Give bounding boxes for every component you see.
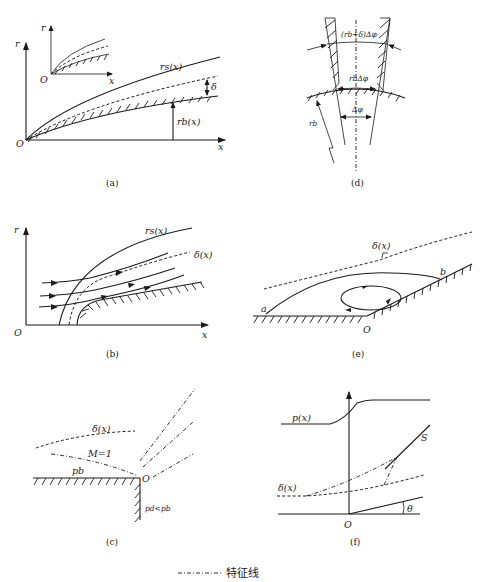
shock-curve	[59, 228, 192, 325]
delta-label: δ(x)	[372, 240, 391, 251]
inset-r-label: r	[41, 22, 47, 33]
streamline-1	[42, 253, 168, 283]
inset-diagram: r O x	[40, 22, 115, 86]
panel-c: δ(x) M=1 pb O pd<pb (c)	[33, 389, 195, 547]
origin-label: O	[363, 324, 371, 335]
outer-arrow-right	[389, 45, 401, 50]
point-a-label: a	[261, 303, 267, 314]
characteristic-line-3	[153, 454, 193, 477]
pb-label: pb	[72, 465, 84, 476]
boundary-layer-curve	[26, 76, 218, 140]
body-label: rb(x)	[177, 116, 201, 127]
angle-label: Δφ	[351, 105, 363, 114]
theta-label: θ	[407, 503, 413, 514]
outer-arc	[327, 42, 387, 44]
horizontal-wall-hatching	[34, 478, 134, 485]
panel-e: δ(x) a b O (e)	[253, 232, 472, 359]
streamlines	[39, 253, 184, 310]
pressure-label: p(x)	[292, 412, 311, 423]
panel-b: r O x rs(x) δ(x) (b)	[14, 224, 213, 359]
vertical-wall-hatching	[135, 484, 140, 522]
inner-arc-label: rbΔφ	[349, 74, 369, 83]
radius-label: rb	[309, 119, 318, 128]
legend-label: 特征线	[226, 566, 259, 580]
panel-a: r O x rs(x) δ rb(x) r O x (a)	[15, 22, 225, 188]
x-axis-label: x	[202, 329, 208, 340]
delta-label: δ(x)	[194, 249, 213, 260]
boundary-layer-curve	[69, 252, 190, 325]
characteristic-line	[306, 457, 397, 496]
figure-canvas: r O x rs(x) δ rb(x) r O x (a)	[0, 0, 482, 582]
characteristic-line-1	[140, 389, 195, 461]
caption-e: (e)	[352, 349, 364, 359]
boundary-layer-curve	[277, 475, 424, 496]
streamline-3	[39, 275, 184, 307]
radius-arrow	[317, 101, 334, 163]
delta-label: δ	[211, 81, 217, 92]
body-arc-hatching	[308, 88, 400, 101]
caption-a: (a)	[106, 178, 118, 188]
caption-b: (b)	[106, 349, 119, 359]
outer-arrow-left	[307, 45, 326, 50]
panel-f: p(x) S δ(x) O θ (f)	[277, 392, 430, 547]
caption-c: (c)	[106, 537, 118, 547]
mach-label: M=1	[87, 448, 112, 459]
r-axis-label: r	[15, 38, 21, 49]
boundary-layer-curve	[36, 431, 135, 448]
shock-label: S	[421, 432, 428, 443]
origin-label: O	[14, 327, 22, 338]
characteristic-link	[384, 457, 397, 485]
caption-f: (f)	[350, 537, 360, 547]
shock-label: rs(x)	[145, 225, 167, 236]
boundary-layer-curve	[264, 232, 472, 289]
characteristic-line-2	[143, 422, 193, 467]
inset-x-label: x	[109, 75, 115, 86]
theta-arc	[403, 502, 404, 514]
inset-origin-label: O	[40, 74, 48, 85]
delta-label: δ(x)	[92, 423, 111, 434]
caption-d: (d)	[351, 178, 364, 188]
inset-hatching	[55, 55, 107, 74]
r-axis-label: r	[14, 224, 20, 235]
pressure-relation-label: pd<pb	[145, 504, 171, 513]
outer-arc-label: (rb+δ)Δφ	[341, 30, 377, 39]
x-axis-label: x	[218, 141, 224, 152]
floor-hatching	[254, 316, 362, 323]
origin-label: O	[142, 473, 150, 484]
shock-label: rs(x)	[160, 61, 182, 72]
panel-d: (rb+δ)Δφ rbΔφ Δφ rb (d)	[307, 18, 405, 188]
origin-label: O	[344, 519, 352, 530]
delta-label: δ(x)	[278, 482, 297, 493]
recirculation-loop	[341, 286, 401, 310]
point-b-label: b	[440, 266, 446, 277]
origin-label: O	[16, 138, 24, 149]
legend: 特征线	[178, 566, 259, 580]
